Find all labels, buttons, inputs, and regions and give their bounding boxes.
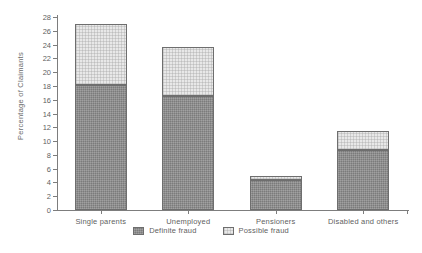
x-axis-line — [57, 210, 409, 211]
y-axis-tick-label: 12 — [43, 123, 51, 132]
x-axis-end-tick — [407, 210, 408, 214]
bar-segment — [162, 47, 214, 97]
y-axis-tick-mark — [53, 141, 57, 142]
y-axis-tick-label: 10 — [43, 137, 51, 146]
y-axis-tick-mark — [53, 196, 57, 197]
legend-item-label: Definite fraud — [149, 226, 196, 235]
x-axis-tick-mark — [188, 210, 189, 214]
y-axis-tick-mark — [53, 155, 57, 156]
bar-group — [75, 17, 127, 210]
y-axis-tick-label: 8 — [47, 150, 51, 159]
legend-swatch-icon — [133, 227, 144, 235]
legend-item[interactable]: Definite fraud — [133, 226, 196, 235]
y-axis-tick-mark — [53, 72, 57, 73]
y-axis-tick-mark — [53, 114, 57, 115]
y-axis-tick-label: 26 — [43, 26, 51, 35]
bar-group — [250, 17, 302, 210]
y-axis-tick-label: 18 — [43, 81, 51, 90]
y-axis-tick-mark — [53, 127, 57, 128]
y-axis-tick-label: 28 — [43, 13, 51, 22]
y-axis-tick-label: 24 — [43, 40, 51, 49]
bar-segment — [75, 85, 127, 210]
stacked-bar-chart: Percentage of Claimants 0246810121416182… — [0, 0, 422, 253]
bar-segment — [337, 131, 389, 150]
y-axis-tick-label: 6 — [47, 164, 51, 173]
y-axis-tick-mark — [53, 100, 57, 101]
y-axis-tick-label: 14 — [43, 109, 51, 118]
x-axis-tick-label: Unemployed — [166, 217, 210, 226]
y-axis-tick-label: 4 — [47, 178, 51, 187]
y-axis-tick-mark — [53, 17, 57, 18]
y-axis-tick-label: 2 — [47, 192, 51, 201]
x-axis-tick-label: Disabled and others — [328, 217, 399, 226]
x-axis-tick-mark — [363, 210, 364, 214]
y-axis-tick-mark — [53, 58, 57, 59]
x-axis-tick-mark — [276, 210, 277, 214]
bar-segment — [162, 96, 214, 210]
bar-group — [337, 17, 389, 210]
y-axis-tick-mark — [53, 169, 57, 170]
y-axis-tick-label: 22 — [43, 54, 51, 63]
y-axis-title: Percentage of Claimants — [14, 0, 28, 196]
x-axis-tick-label: Single parents — [75, 217, 126, 226]
x-axis-tick-label: Pensioners — [256, 217, 296, 226]
bar-group — [162, 17, 214, 210]
legend-item[interactable]: Possible fraud — [223, 226, 289, 235]
y-axis-tick-mark — [53, 86, 57, 87]
bar-segment — [250, 180, 302, 210]
y-axis-tick-label: 16 — [43, 95, 51, 104]
y-axis-tick-label: 0 — [47, 206, 51, 215]
x-axis-tick-mark — [101, 210, 102, 214]
y-axis-tick-mark — [53, 182, 57, 183]
y-axis-tick-mark — [53, 31, 57, 32]
y-axis-tick-label: 20 — [43, 68, 51, 77]
y-axis-tick-mark — [53, 210, 57, 211]
legend-item-label: Possible fraud — [239, 226, 289, 235]
bar-segment — [250, 176, 302, 180]
bar-segment — [337, 150, 389, 210]
chart-legend: Definite fraudPossible fraud — [0, 226, 422, 235]
legend-swatch-icon — [223, 227, 234, 235]
bar-segment — [75, 24, 127, 85]
y-axis-tick-mark — [53, 45, 57, 46]
plot-area: 0246810121416182022242628Single parentsU… — [57, 17, 407, 210]
